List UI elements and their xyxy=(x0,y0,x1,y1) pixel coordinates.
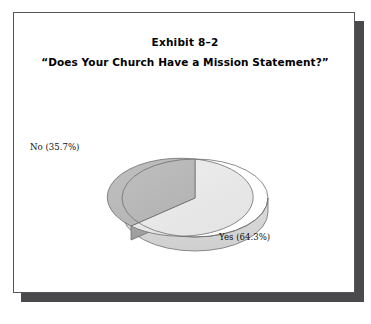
pie-chart: No (35.7%) Yes (64.3%) xyxy=(14,109,356,289)
pie-label-yes: Yes (64.3%) xyxy=(219,232,270,242)
chart-title-block: Exhibit 8–2 “Does Your Church Have a Mis… xyxy=(14,35,356,69)
page-sheet: Exhibit 8–2 “Does Your Church Have a Mis… xyxy=(13,12,355,293)
screenshot-root: Exhibit 8–2 “Does Your Church Have a Mis… xyxy=(0,0,371,324)
pie-chart-svg xyxy=(14,109,356,289)
chart-question-title: “Does Your Church Have a Mission Stateme… xyxy=(14,55,356,69)
pie-label-no: No (35.7%) xyxy=(30,142,79,152)
exhibit-title: Exhibit 8–2 xyxy=(14,35,356,49)
